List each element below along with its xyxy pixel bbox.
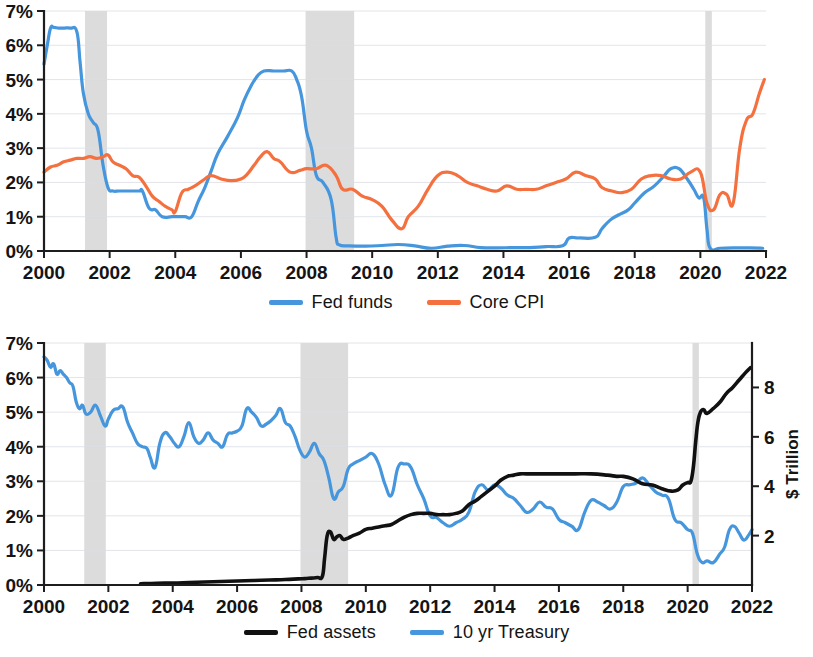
y-tick-right-label-3: 8 bbox=[764, 377, 775, 398]
x-tick-label-10: 2020 bbox=[666, 596, 708, 615]
y-tick-left-label-2: 2% bbox=[6, 506, 34, 527]
right-axis-title: $ Trillion bbox=[783, 429, 802, 499]
x-tick-label-8: 2016 bbox=[538, 596, 580, 615]
x-tick-label-9: 2018 bbox=[614, 262, 656, 283]
rates-chart-legend: Fed fundsCore CPI bbox=[0, 292, 813, 313]
x-tick-label-2: 2004 bbox=[154, 262, 197, 283]
x-tick-label-4: 2008 bbox=[280, 596, 322, 615]
recession-band-0 bbox=[84, 343, 106, 585]
x-tick-label-4: 2008 bbox=[285, 262, 327, 283]
x-tick-label-8: 2016 bbox=[548, 262, 590, 283]
y-tick-left-label-7: 7% bbox=[6, 333, 34, 354]
legend-item-core-cpi[interactable]: Core CPI bbox=[427, 292, 545, 313]
legend-swatch-icon bbox=[427, 300, 461, 305]
recession-band-1 bbox=[306, 11, 355, 251]
legend-label: Fed assets bbox=[287, 622, 376, 643]
x-tick-label-1: 2002 bbox=[87, 596, 129, 615]
x-tick-label-0: 2000 bbox=[23, 262, 65, 283]
assets-chart-svg: 0%1%2%3%4%5%6%7%246820002002200420062008… bbox=[0, 330, 813, 615]
legend-label: Fed funds bbox=[312, 292, 393, 313]
y-tick-label-4: 4% bbox=[6, 104, 34, 125]
rates-chart-panel: 0%1%2%3%4%5%6%7%200020022004200620082010… bbox=[0, 0, 813, 330]
y-tick-label-2: 2% bbox=[6, 172, 34, 193]
x-tick-label-1: 2002 bbox=[88, 262, 130, 283]
y-tick-left-label-1: 1% bbox=[6, 540, 34, 561]
x-tick-label-3: 2006 bbox=[220, 262, 262, 283]
series-line-fed-assets bbox=[141, 368, 751, 584]
legend-item-fed-assets[interactable]: Fed assets bbox=[244, 622, 376, 643]
y-tick-label-5: 5% bbox=[6, 70, 34, 91]
y-tick-left-label-4: 4% bbox=[6, 437, 34, 458]
y-tick-label-3: 3% bbox=[6, 138, 34, 159]
x-tick-label-7: 2014 bbox=[482, 262, 525, 283]
x-tick-label-6: 2012 bbox=[417, 262, 459, 283]
x-tick-label-0: 2000 bbox=[23, 596, 65, 615]
legend-item-10-yr-treasury[interactable]: 10 yr Treasury bbox=[410, 622, 569, 643]
recession-band-0 bbox=[85, 11, 107, 251]
series-line-10-yr-treasury bbox=[44, 357, 752, 563]
y-tick-right-label-2: 6 bbox=[764, 427, 775, 448]
y-tick-left-label-6: 6% bbox=[6, 368, 34, 389]
legend-label: Core CPI bbox=[470, 292, 545, 313]
y-tick-label-0: 0% bbox=[6, 241, 34, 262]
axis-lines bbox=[44, 11, 766, 251]
assets-chart-panel: 0%1%2%3%4%5%6%7%246820002002200420062008… bbox=[0, 330, 813, 657]
legend-label: 10 yr Treasury bbox=[453, 622, 569, 643]
assets-chart-legend: Fed assets10 yr Treasury bbox=[0, 622, 813, 643]
x-tick-label-9: 2018 bbox=[602, 596, 644, 615]
legend-item-fed-funds[interactable]: Fed funds bbox=[269, 292, 393, 313]
legend-swatch-icon bbox=[410, 630, 444, 635]
x-tick-label-7: 2014 bbox=[473, 596, 516, 615]
y-tick-label-7: 7% bbox=[6, 1, 34, 22]
rates-chart-svg: 0%1%2%3%4%5%6%7%200020022004200620082010… bbox=[0, 0, 813, 290]
legend-swatch-icon bbox=[244, 630, 278, 635]
x-tick-label-3: 2006 bbox=[216, 596, 258, 615]
y-tick-left-label-3: 3% bbox=[6, 471, 34, 492]
y-tick-left-label-0: 0% bbox=[6, 575, 34, 596]
x-tick-label-6: 2012 bbox=[409, 596, 451, 615]
legend-swatch-icon bbox=[269, 300, 303, 305]
x-tick-label-10: 2020 bbox=[679, 262, 721, 283]
x-tick-label-5: 2010 bbox=[345, 596, 387, 615]
y-tick-label-1: 1% bbox=[6, 207, 34, 228]
y-tick-right-label-1: 4 bbox=[764, 476, 775, 497]
y-tick-left-label-5: 5% bbox=[6, 402, 34, 423]
x-tick-label-2: 2004 bbox=[152, 596, 195, 615]
x-tick-label-11: 2022 bbox=[745, 262, 787, 283]
y-tick-right-label-0: 2 bbox=[764, 526, 775, 547]
series-line-core-cpi bbox=[44, 80, 764, 229]
figure-container: 0%1%2%3%4%5%6%7%200020022004200620082010… bbox=[0, 0, 813, 657]
x-tick-label-11: 2022 bbox=[731, 596, 773, 615]
y-tick-label-6: 6% bbox=[6, 35, 34, 56]
x-tick-label-5: 2010 bbox=[351, 262, 393, 283]
